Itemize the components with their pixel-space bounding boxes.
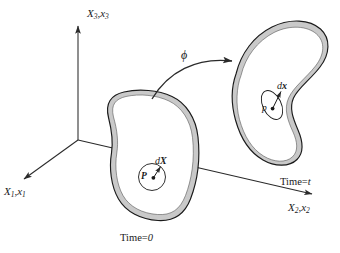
- axis-label-x1: X1,x1: [4, 186, 26, 197]
- reference-body-interior: [113, 95, 194, 215]
- current-time-label: Time=t: [280, 177, 311, 188]
- reference-dX-vector: X: [160, 155, 167, 166]
- current-time-prefix: Time: [280, 176, 302, 187]
- axis-label-x2: X2,x2: [288, 202, 310, 213]
- axis-label-x3-lower: x3: [100, 7, 109, 19]
- reference-dX-label: dX: [155, 156, 167, 166]
- axis-label-x2-lower: x2: [301, 201, 310, 213]
- figure-container: X3,x3 X1,x1 X2,x2 Time=0 Time=t dX P dx …: [0, 0, 340, 253]
- current-time-value: t: [308, 176, 311, 187]
- reference-time-prefix: Time: [120, 232, 142, 243]
- reference-time-label: Time=0: [120, 233, 153, 244]
- deformation-diagram-svg: [0, 0, 340, 253]
- axis-line-x1: [24, 140, 78, 179]
- current-dx-vector: x: [282, 80, 287, 91]
- reference-time-value: 0: [148, 232, 153, 243]
- axis-label-x3-upper: X3: [87, 7, 97, 19]
- reference-point-P-label: P: [141, 172, 147, 182]
- axis-label-x3: X3,x3: [87, 8, 109, 19]
- current-point-p-label: p: [262, 104, 267, 114]
- current-dx-label: dx: [277, 81, 287, 91]
- reference-configuration-body: [108, 90, 199, 220]
- phi-symbol-label: ϕ: [181, 49, 187, 61]
- axis-label-x1-lower: x1: [17, 185, 26, 197]
- current-configuration-body: [232, 21, 328, 165]
- axis-label-x1-upper: X1: [4, 185, 14, 197]
- axis-label-x2-upper: X2: [288, 201, 298, 213]
